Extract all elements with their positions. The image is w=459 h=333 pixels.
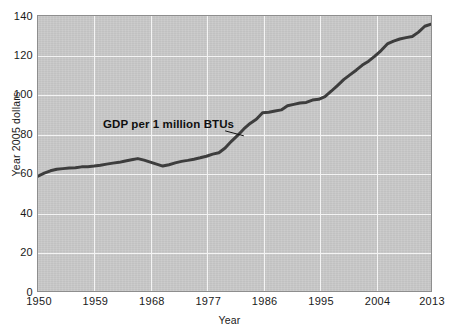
y-tick-label-40: 40 <box>0 207 33 219</box>
x-tick-label-1977: 1977 <box>178 295 238 307</box>
series-annotation-label: GDP per 1 million BTUs <box>103 118 234 130</box>
y-axis-title: Year 2005 dollars <box>10 64 22 204</box>
series-gdp-per-million-btus <box>38 16 431 291</box>
x-tick-label-1959: 1959 <box>65 295 125 307</box>
series-line <box>38 24 431 176</box>
y-tick-label-20: 20 <box>0 246 33 258</box>
x-tick-label-1968: 1968 <box>122 295 182 307</box>
y-tick-label-120: 120 <box>0 49 33 61</box>
x-tick-label-2004: 2004 <box>348 295 408 307</box>
y-tick-label-140: 140 <box>0 10 33 22</box>
x-tick-label-1986: 1986 <box>235 295 295 307</box>
plot-area <box>37 15 432 292</box>
x-tick-label-2013: 2013 <box>402 295 459 307</box>
x-tick-label-1995: 1995 <box>291 295 351 307</box>
x-axis-title: Year <box>0 314 459 326</box>
x-tick-label-1950: 1950 <box>9 295 69 307</box>
chart-figure: 0 20 40 60 80 100 120 140 1950 1959 1968… <box>0 0 459 333</box>
